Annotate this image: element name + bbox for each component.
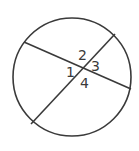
angle-label-1: 1 xyxy=(66,64,75,80)
angle-label-4: 4 xyxy=(80,75,89,91)
angle-label-3: 3 xyxy=(91,58,100,74)
intersecting-chords-diagram: 1 2 3 4 xyxy=(0,0,139,151)
angle-label-2: 2 xyxy=(78,47,87,63)
